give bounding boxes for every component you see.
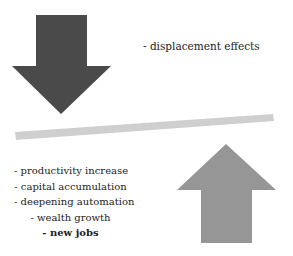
list-item-new-jobs: - new jobs bbox=[14, 225, 127, 241]
list-item-productivity: - productivity increase bbox=[14, 163, 127, 179]
list-item-capital: - capital accumulation bbox=[14, 179, 127, 195]
up-arrow-icon bbox=[177, 144, 276, 243]
down-arrow-icon bbox=[12, 15, 111, 114]
balance-bar bbox=[15, 114, 274, 140]
countervailing-effects-list: - productivity increase - capital accumu… bbox=[14, 163, 127, 241]
list-item-wealth: - wealth growth bbox=[14, 210, 127, 226]
list-item-automation: - deepening automation bbox=[14, 194, 127, 210]
displacement-effects-label: - displacement effects bbox=[143, 40, 260, 52]
